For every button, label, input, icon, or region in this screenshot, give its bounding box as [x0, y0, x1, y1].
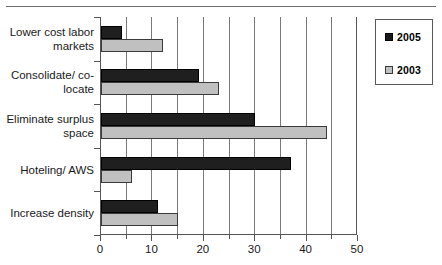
x-major-tick-40 [306, 235, 307, 241]
x-major-tick-20 [203, 235, 204, 241]
x-tick-label-10: 10 [145, 243, 158, 255]
legend-swatch-icon-2005 [385, 33, 393, 41]
x-tick-label-40: 40 [299, 243, 312, 255]
category-label-3: Hoteling/ AWS [0, 163, 94, 177]
page-horizontal-rule [6, 6, 436, 7]
category-tick-2 [94, 104, 100, 105]
x-major-tick-0 [100, 235, 101, 241]
category-label-4: Increase density [0, 206, 94, 220]
plot-area [100, 17, 357, 235]
legend-item-2003[interactable]: 2003 [385, 64, 421, 76]
x-minor-tick-45 [331, 235, 332, 239]
category-tick-4 [94, 191, 100, 192]
x-minor-tick-35 [280, 235, 281, 239]
bar-2005-cat1 [101, 69, 199, 82]
category-label-2: Eliminate surplus space [0, 112, 94, 140]
bar-2003-cat0 [101, 39, 163, 52]
x-minor-tick-15 [177, 235, 178, 239]
category-tick-1 [94, 61, 100, 62]
x-tick-label-30: 30 [248, 243, 261, 255]
x-tick-label-20: 20 [196, 243, 209, 255]
chart-legend: 20052003 [375, 19, 433, 85]
x-major-tick-30 [254, 235, 255, 241]
bar-2003-cat4 [101, 213, 178, 226]
x-minor-tick-5 [126, 235, 127, 239]
legend-label-2005: 2005 [397, 31, 421, 43]
x-major-tick-50 [357, 235, 358, 241]
bar-2005-cat2 [101, 113, 255, 126]
x-tick-label-50: 50 [351, 243, 364, 255]
category-label-1: Consolidate/ co-locate [0, 68, 94, 96]
category-tick-0 [94, 17, 100, 18]
x-major-tick-10 [151, 235, 152, 241]
bar-chart-figure: Lower cost labor marketsConsolidate/ co-… [0, 0, 442, 265]
bar-2003-cat1 [101, 82, 219, 95]
legend-item-2005[interactable]: 2005 [385, 31, 421, 43]
x-tick-label-0: 0 [97, 243, 103, 255]
bar-2003-cat3 [101, 170, 132, 183]
legend-label-2003: 2003 [397, 64, 421, 76]
bar-2005-cat3 [101, 157, 291, 170]
bar-2005-cat0 [101, 26, 122, 39]
x-minor-tick-25 [229, 235, 230, 239]
bar-2003-cat2 [101, 126, 327, 139]
bar-2005-cat4 [101, 200, 158, 213]
gridline-45 [331, 17, 332, 234]
category-label-0: Lower cost labor markets [0, 25, 94, 53]
category-tick-3 [94, 148, 100, 149]
legend-swatch-icon-2003 [385, 66, 393, 74]
